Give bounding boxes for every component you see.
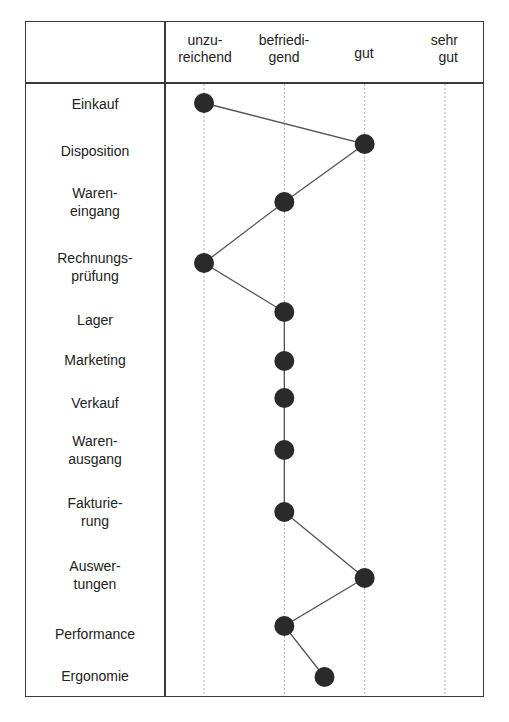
data-point-marker: [355, 568, 375, 588]
plot-area: [0, 0, 509, 722]
data-point-marker: [355, 134, 375, 154]
data-point-marker: [274, 302, 294, 322]
grid-lines: [204, 84, 445, 696]
data-point-marker: [274, 192, 294, 212]
data-point-marker: [194, 253, 214, 273]
data-point-marker: [274, 616, 294, 636]
data-point-marker: [315, 667, 335, 687]
data-point-marker: [274, 351, 294, 371]
data-point-marker: [274, 502, 294, 522]
data-point-marker: [194, 93, 214, 113]
rating-profile-chart: unzu- reichend befriedi- gend gut sehr g…: [0, 0, 509, 722]
data-point-marker: [274, 388, 294, 408]
data-point-marker: [274, 440, 294, 460]
